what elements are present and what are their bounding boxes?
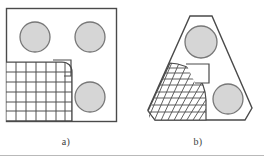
panel-b-caption: b) bbox=[132, 136, 264, 147]
figure-root: a) b) bbox=[0, 0, 264, 157]
figure-canvas bbox=[0, 0, 264, 157]
hole-top-b bbox=[185, 26, 217, 58]
hole-top-left-a bbox=[20, 22, 50, 52]
hole-bottom-right-a bbox=[75, 82, 105, 112]
hole-bottom-right-b bbox=[213, 84, 243, 114]
panel-a bbox=[2, 9, 117, 125]
panel-a-caption: a) bbox=[0, 136, 132, 147]
panel-b bbox=[144, 16, 252, 128]
hole-top-right-a bbox=[75, 22, 105, 52]
